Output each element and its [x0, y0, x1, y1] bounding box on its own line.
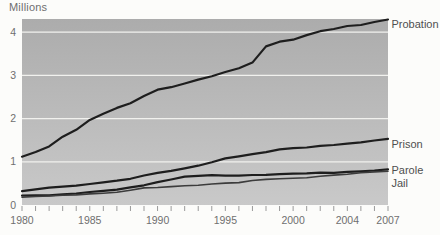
- x-tick-label: 1995: [214, 214, 238, 226]
- series-label-parole: Parole: [392, 164, 424, 176]
- y-tick-label: 4: [10, 26, 16, 38]
- x-tick-label: 1980: [10, 214, 34, 226]
- y-tick-label: 3: [10, 69, 16, 81]
- series-label-prison: Prison: [392, 138, 423, 150]
- y-tick-label: 2: [10, 112, 16, 124]
- y-tick-label: 0: [10, 199, 16, 211]
- correctional-populations-chart: Millions 0123419801985199019952000200420…: [0, 0, 440, 235]
- series-label-probation: Probation: [392, 18, 439, 30]
- series-label-jail: Jail: [392, 177, 409, 189]
- chart-plot-canvas: 012341980198519901995200020042007Probati…: [0, 0, 440, 235]
- x-tick-label: 1985: [78, 214, 102, 226]
- x-tick-label: 2007: [376, 214, 400, 226]
- x-tick-label: 2000: [281, 214, 305, 226]
- y-tick-label: 1: [10, 155, 16, 167]
- x-tick-label: 1990: [146, 214, 170, 226]
- plot-background: [22, 19, 388, 205]
- x-tick-label: 2004: [336, 214, 360, 226]
